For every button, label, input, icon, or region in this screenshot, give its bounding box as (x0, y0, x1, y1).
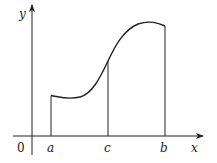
point-b-label: b (160, 141, 168, 155)
origin-label: 0 (17, 141, 25, 155)
x-axis-label: x (191, 141, 198, 155)
point-c-label: c (104, 141, 111, 155)
y-axis-label: y (18, 7, 26, 21)
point-a-label: a (47, 141, 54, 155)
function-graph-diagram: y 0 a c b x (0, 0, 217, 163)
